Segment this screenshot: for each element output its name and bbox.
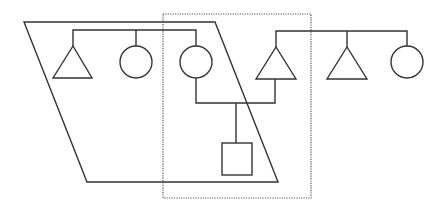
left-circle-2	[120, 46, 152, 78]
pedigree-diagram	[0, 0, 443, 212]
left-sibship	[53, 30, 212, 78]
marriage-line	[196, 78, 275, 143]
right-triangle-2	[327, 47, 367, 79]
right-sibship	[256, 31, 423, 79]
right-triangle-1	[256, 47, 296, 79]
left-triangle-1	[53, 46, 92, 78]
child-square	[222, 143, 252, 175]
right-circle-3	[391, 46, 423, 78]
left-circle-3	[180, 46, 212, 78]
